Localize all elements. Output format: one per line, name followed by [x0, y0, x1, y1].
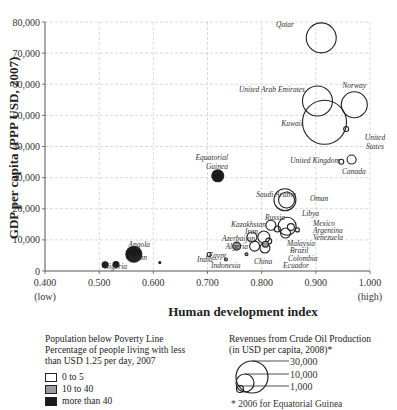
x-tick-label: 0.400: [34, 277, 57, 288]
point-label: Venezuela: [313, 233, 343, 242]
bubble-chart: 010,00020,00030,00040,00050,00060,00070,…: [0, 0, 397, 330]
size-label-10000: 10,000: [290, 369, 318, 380]
bubble-equatorial-guinea: [212, 170, 224, 182]
revenue-legend: Revenues from Crude Oil Production (in U…: [229, 334, 371, 356]
point-label: Qatar: [276, 20, 294, 29]
x-tick-label: 0.600: [142, 277, 165, 288]
swatch-high: [45, 397, 57, 406]
legend-item-low: 0 to 5: [45, 371, 185, 383]
point-label: Ecuador: [282, 261, 309, 270]
size-label-1000: 1,000: [290, 381, 313, 392]
point-label: China: [254, 257, 273, 266]
bubble-mexico: [287, 224, 294, 231]
legend-item-high: more than 40: [45, 395, 185, 407]
bubble-canada: [347, 155, 356, 164]
point-label: Libya: [301, 209, 319, 218]
point-label: Russia: [264, 213, 285, 222]
x-tick-label: 1.000: [359, 277, 382, 288]
revenue-legend-title-2: (in USD per capita, 2008)*: [229, 345, 371, 356]
y-tick-label: 80,000: [13, 17, 41, 28]
bubble-china: [245, 253, 248, 256]
point-label: Algeria: [225, 242, 249, 251]
x-tick-label: 0.800: [250, 277, 273, 288]
y-tick-label: 0: [35, 266, 40, 277]
footnote: * 2006 for Equatorial Guinea: [231, 399, 343, 409]
point-label: India: [196, 255, 213, 264]
bubble-colombia: [262, 241, 268, 247]
poverty-legend: Population below Poverty Line Percentage…: [45, 334, 185, 407]
swatch-mid: [45, 385, 57, 394]
x-tick-sublabel: (high): [358, 291, 382, 303]
bubble-malaysia: [274, 226, 280, 232]
swatch-low: [45, 373, 57, 382]
legend-label-mid: 10 to 40: [62, 384, 93, 395]
bubble-qatar: [306, 23, 336, 53]
legend-label-high: more than 40: [62, 396, 112, 407]
point-label: Oman: [310, 194, 329, 203]
revenue-legend-title-1: Revenues from Crude Oil Production: [229, 334, 371, 345]
bubble-argentina: [295, 228, 299, 232]
point-label: Norway: [341, 81, 366, 90]
poverty-legend-title-1: Population below Poverty Line: [45, 334, 185, 345]
x-tick-sublabel: (low): [34, 291, 56, 303]
point-label: Indonesia: [210, 261, 241, 270]
revenue-size-legend: 30,000 10,000 1,000 * 2006 for Equatoria…: [229, 356, 397, 410]
point-label: United Arab Emirates: [239, 85, 305, 94]
poverty-legend-title-2: Percentage of people living with less: [45, 345, 185, 356]
poverty-legend-title-3: than USD 1.25 per day, 2007: [45, 356, 185, 367]
point-label: States: [366, 142, 384, 151]
bubble-united-arab-emirates: [302, 86, 332, 116]
point-label: Angola: [127, 240, 150, 249]
x-axis-title: Human development index: [168, 304, 318, 319]
x-tick-label: 0.500: [88, 277, 111, 288]
point-label: Canada: [342, 167, 366, 176]
legend-item-mid: 10 to 40: [45, 383, 185, 395]
point-label: United Kingdom: [290, 156, 340, 165]
x-tick-label: 0.700: [196, 277, 219, 288]
point-label: Equatorial: [194, 153, 228, 162]
legend-label-low: 0 to 5: [62, 372, 84, 383]
y-axis-title: GDP per capita (PPP USD, 2007): [6, 57, 21, 239]
bubble-united-states: [344, 127, 349, 132]
point-label: Kuwait: [280, 119, 304, 128]
point-label: Sudan: [128, 253, 147, 262]
point-label: United: [365, 133, 386, 142]
bubble-norway: [341, 92, 367, 118]
size-label-30000: 30,000: [290, 356, 318, 367]
bubble-india: [159, 262, 161, 264]
point-labels: QatarUnited Arab EmiratesNorwayKuwaitUni…: [103, 20, 385, 271]
point-label: Saudi Arabia: [256, 190, 296, 199]
point-label: Guinea: [206, 162, 228, 171]
point-label: Nigeria: [103, 262, 127, 271]
x-tick-label: 0.900: [305, 277, 328, 288]
